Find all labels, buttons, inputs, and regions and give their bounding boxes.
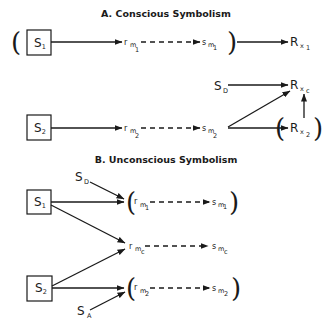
sm2-label: s m 2 (202, 124, 217, 140)
svg-text:2: 2 (135, 132, 139, 140)
svg-text:2: 2 (145, 290, 149, 298)
svg-text:c: c (306, 87, 310, 95)
smc-label: s m c (212, 242, 228, 256)
open-paren-rx2: ( (275, 113, 285, 143)
rmc-label: r m c (129, 242, 145, 256)
svg-text:2: 2 (306, 131, 310, 139)
svg-text:S: S (75, 170, 83, 184)
svg-text:r: r (134, 283, 138, 292)
svg-text:c: c (141, 248, 145, 256)
close-paren-rx2: ) (313, 113, 323, 143)
rx2-label: R x 2 (290, 121, 310, 139)
rm1-label: r m 1 (124, 38, 139, 54)
svg-text:S: S (77, 304, 85, 318)
rxc-label: R x c (290, 78, 310, 95)
svg-text:D: D (223, 87, 228, 95)
symbolism-diagram: A. Conscious Symbolism ( S1 r m 1 s m 1 … (0, 0, 333, 327)
rm2-label: r m 2 (124, 124, 139, 140)
sm2-label-b: s m 2 (212, 284, 228, 298)
drive-sd-label-b: S D (75, 170, 89, 186)
svg-text:s: s (212, 284, 216, 293)
svg-text:s: s (202, 124, 206, 133)
section-a-title: A. Conscious Symbolism (101, 8, 231, 19)
svg-text:s: s (212, 198, 216, 207)
close-paren-b2: ) (231, 273, 241, 303)
rm1-label-b: r m 1 (134, 197, 149, 212)
sm1-label-b: s m 1 (212, 198, 227, 211)
svg-text:x: x (300, 128, 304, 136)
svg-text:r: r (124, 38, 128, 47)
arrow-sa-to-rm2 (90, 292, 125, 310)
svg-text:2: 2 (224, 290, 228, 298)
open-paren: ( (11, 27, 21, 57)
close-paren-b1: ) (229, 187, 239, 217)
svg-text:A: A (87, 312, 92, 320)
arrow-s1-to-rmc (51, 205, 125, 243)
svg-text:s: s (212, 242, 216, 251)
svg-text:R: R (290, 78, 298, 92)
svg-text:1: 1 (223, 203, 227, 211)
svg-text:s: s (202, 38, 206, 47)
svg-text:x: x (300, 85, 304, 93)
svg-text:1: 1 (213, 44, 217, 52)
close-paren: ) (227, 27, 237, 57)
svg-text:S: S (214, 79, 222, 93)
svg-text:2: 2 (213, 132, 217, 140)
svg-text:1: 1 (145, 204, 149, 212)
drive-sd-label: S D (214, 79, 228, 95)
rx1-label: R x 1 (290, 35, 310, 52)
svg-text:R: R (290, 121, 298, 135)
svg-text:1: 1 (306, 44, 310, 52)
section-b-title: B. Unconscious Symbolism (95, 154, 238, 165)
arrow-s2-to-rmc (52, 249, 125, 286)
svg-text:c: c (224, 248, 228, 256)
arrow-sd-to-rm1 (90, 182, 124, 199)
sm1-label: s m 1 (202, 38, 217, 52)
svg-text:1: 1 (135, 46, 139, 54)
svg-text:r: r (129, 242, 133, 251)
svg-text:D: D (84, 178, 89, 186)
anxiety-sa-label: S A (77, 304, 92, 320)
svg-text:r: r (134, 197, 138, 206)
svg-text:r: r (124, 124, 128, 133)
svg-text:x: x (300, 42, 304, 50)
svg-text:R: R (290, 35, 298, 49)
rm2-label-b: r m 2 (134, 283, 149, 298)
